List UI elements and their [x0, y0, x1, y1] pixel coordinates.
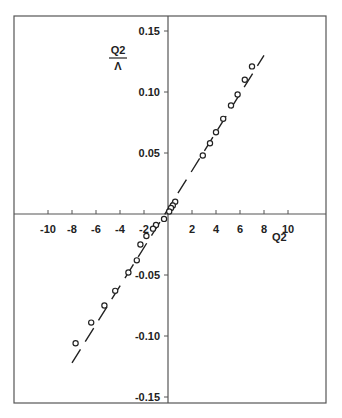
data-point: [228, 103, 233, 108]
y-tick-label: 0.05: [139, 147, 160, 159]
y-axis-title: Q2 Λ: [109, 44, 127, 72]
svg-text:Q2: Q2: [111, 44, 126, 56]
x-tick-label: 8: [261, 223, 267, 235]
y-tick-label: -0.05: [135, 269, 160, 281]
x-tick-label: -8: [67, 223, 77, 235]
y-tick-label: -0.10: [135, 330, 160, 342]
x-tick-label: 4: [213, 223, 220, 235]
data-point: [161, 216, 166, 221]
data-point: [249, 64, 254, 69]
data-point: [113, 288, 118, 293]
x-axis-title: Q2: [272, 231, 287, 243]
data-point: [213, 130, 218, 135]
data-point: [89, 320, 94, 325]
data-point: [200, 153, 205, 158]
x-tick-label: 2: [189, 223, 195, 235]
x-tick-label: -4: [115, 223, 126, 235]
x-tick-label: -10: [40, 223, 56, 235]
data-point: [207, 141, 212, 146]
data-point: [138, 242, 143, 247]
data-point: [221, 116, 226, 121]
y-tick-label: 0.10: [139, 86, 160, 98]
data-point: [150, 226, 155, 231]
data-point: [126, 270, 131, 275]
data-point: [167, 209, 172, 214]
data-point: [134, 258, 139, 263]
y-tick-label: 0.15: [139, 25, 160, 37]
scatter-chart: -10-8-6-4-2246810 0.150.100.05-0.05-0.10…: [0, 0, 342, 418]
x-tick-label: 6: [237, 223, 243, 235]
data-points: [73, 64, 255, 346]
data-point: [235, 92, 240, 97]
y-tick-label: -0.15: [135, 391, 160, 403]
data-point: [73, 341, 78, 346]
svg-text:Λ: Λ: [114, 60, 122, 72]
x-tick-label: -6: [91, 223, 101, 235]
data-point: [102, 303, 107, 308]
data-point: [144, 233, 149, 238]
data-point: [242, 77, 247, 82]
